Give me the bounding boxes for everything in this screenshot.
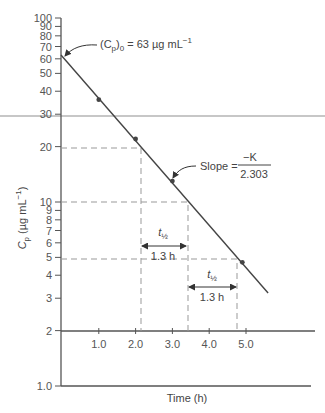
c0-annotation: (Cp)0 = 63 µg mL−1 <box>65 36 192 56</box>
y-tick-label: 50 <box>40 67 52 79</box>
x-tick-label: 3.0 <box>165 338 180 350</box>
slope-annotation: Slope = −K 2.303 <box>173 151 271 180</box>
data-point <box>96 97 101 102</box>
svg-text:1.3 h: 1.3 h <box>200 291 224 303</box>
slope-label: Slope = <box>200 160 238 172</box>
y-tick-label: 2 <box>46 325 52 337</box>
y-axis-label: Cp (µg mL−1) <box>14 187 31 250</box>
svg-text:t½: t½ <box>207 268 217 283</box>
svg-text:1.3 h: 1.3 h <box>151 250 175 262</box>
half-life-1-annotation: t½ 1.3 h <box>142 226 186 262</box>
x-tick-label: 1.0 <box>91 338 106 350</box>
data-point <box>170 179 175 184</box>
y-tick-label: 4 <box>46 269 52 281</box>
slope-denominator: 2.303 <box>240 168 268 180</box>
chart-canvas: 100908070605040302010987654321.0 1.02.03… <box>0 0 325 413</box>
data-point <box>133 137 138 142</box>
y-tick-label: 20 <box>40 141 52 153</box>
half-life-guides <box>61 148 237 331</box>
svg-text:t½: t½ <box>158 226 168 241</box>
y-tick-label: 60 <box>40 53 52 65</box>
y-tick-label: 6 <box>46 237 52 249</box>
y-tick-label: 40 <box>40 85 52 97</box>
y-tick-label: 5 <box>46 251 52 263</box>
y-tick-label: 7 <box>46 225 52 237</box>
y-tick-label: 70 <box>40 41 52 53</box>
y-tick-label: 3 <box>46 292 52 304</box>
x-tick-label: 2.0 <box>128 338 143 350</box>
x-tick-label: 5.0 <box>238 338 253 350</box>
y-ticks: 100908070605040302010987654321.0 <box>34 12 61 392</box>
x-tick-label: 4.0 <box>202 338 217 350</box>
half-life-2-annotation: t½ 1.3 h <box>189 268 236 303</box>
y-tick-label: 30 <box>40 108 52 120</box>
x-axis-label: Time (h) <box>167 392 208 404</box>
y-tick-label: 1.0 <box>37 380 52 392</box>
data-point <box>240 260 245 265</box>
c0-label: (Cp)0 = 63 µg mL−1 <box>100 36 192 53</box>
slope-numerator: −K <box>243 151 257 163</box>
